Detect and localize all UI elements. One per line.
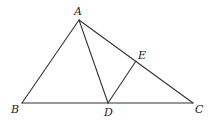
label-d: D [103,106,113,119]
triangle-diagram: A B C D E [0,0,215,124]
segment-ab [22,20,79,103]
label-c: C [195,103,204,116]
segment-ad [79,20,108,103]
segment-de [108,61,136,103]
label-b: B [10,103,19,116]
label-a: A [73,5,82,18]
label-e: E [137,49,146,62]
